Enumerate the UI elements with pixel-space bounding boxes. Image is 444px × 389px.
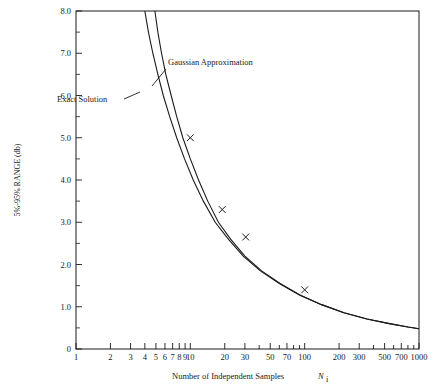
x-axis-tick-labels: 12345678910203050701002003005007001000 [74, 352, 428, 362]
chart-container: 12345678910203050701002003005007001000 0… [0, 0, 444, 389]
y-tick-label: 4.0 [60, 175, 71, 185]
x-tick-label: 200 [333, 352, 346, 362]
x-axis-ticks [76, 343, 419, 349]
y-tick-label: 3.0 [60, 217, 71, 227]
x-tick-label: 500 [378, 352, 391, 362]
annotation-leader-gaussian [152, 69, 166, 86]
x-tick-label: 30 [241, 352, 250, 362]
x-tick-label: 5 [154, 352, 158, 362]
x-tick-label: 50 [266, 352, 275, 362]
x-tick-label: 10 [186, 352, 195, 362]
data-marker-x [187, 134, 194, 141]
annotation-gaussian-approximation: Gaussian Approximation [168, 57, 254, 67]
x-tick-label: 1000 [411, 352, 428, 362]
x-tick-label: 70 [283, 352, 292, 362]
x-tick-label: 20 [221, 352, 230, 362]
y-axis-tick-labels: 01.02.03.04.05.06.07.08.0 [60, 6, 71, 354]
data-markers-group [187, 134, 308, 293]
y-tick-label: 0 [67, 344, 71, 354]
y-tick-label: 2.0 [60, 260, 71, 270]
x-axis-title: Number of Independent Samples [172, 371, 284, 381]
chart-svg: 12345678910203050701002003005007001000 0… [0, 0, 444, 389]
y-tick-label: 1.0 [60, 302, 71, 312]
x-tick-label: 4 [143, 352, 148, 362]
y-axis-ticks [76, 11, 82, 349]
data-marker-x [242, 234, 249, 241]
x-tick-label: 6 [163, 352, 167, 362]
annotation-leader-exact [124, 92, 140, 99]
y-tick-label: 7.0 [60, 48, 71, 58]
annotation-exact-solution: Exact Solution [57, 94, 108, 104]
y-axis-title: 5%-95% RANGE (db) [13, 143, 22, 216]
x-tick-label: 3 [128, 352, 132, 362]
x-tick-label: 100 [298, 352, 311, 362]
x-axis-symbol: N [317, 371, 325, 381]
x-tick-label: 8 [177, 352, 181, 362]
y-tick-label: 5.0 [60, 133, 71, 143]
data-marker-x [219, 206, 226, 213]
y-tick-label: 8.0 [60, 6, 71, 16]
x-tick-label: 2 [108, 352, 112, 362]
x-tick-label: 1 [74, 352, 78, 362]
x-axis-symbol-subscript: i [326, 374, 329, 384]
x-tick-label: 7 [170, 352, 174, 362]
data-marker-x [301, 286, 308, 293]
x-tick-label: 300 [353, 352, 366, 362]
x-tick-label: 700 [395, 352, 408, 362]
